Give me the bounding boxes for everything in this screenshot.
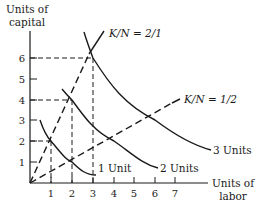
ray-2-1-label: K/N = 2/1 (108, 27, 162, 39)
x-tick-2: 2 (69, 188, 75, 199)
isoquant-1-unit-label: 1 Unit (98, 162, 132, 174)
x-axis-title-line1: Units of (212, 177, 255, 189)
ray-2-1-solid (89, 31, 104, 54)
ray-2-1-dashed (30, 54, 89, 183)
y-tick-3: 3 (19, 115, 25, 126)
ray-1-2-label: K/N = 1/2 (183, 93, 237, 105)
ray-1-2-solid (172, 99, 180, 103)
y-tick-1: 1 (19, 157, 25, 168)
isoquant-2-units-label: 2 Units (160, 162, 199, 174)
x-tick-4: 4 (111, 188, 117, 199)
isoquant-chart: Units of capital 1 2 3 4 5 6 (0, 0, 258, 207)
x-axis-title-line2: labor (219, 190, 248, 202)
x-axis-ticks (51, 177, 175, 183)
isoquant-2-units (62, 89, 158, 168)
isoquant-3-units (84, 32, 211, 150)
x-tick-7: 7 (172, 188, 178, 199)
y-axis-title-line2: capital (9, 16, 46, 28)
y-tick-5: 5 (19, 74, 25, 85)
y-axis-title-line1: Units of (6, 3, 49, 15)
x-tick-6: 6 (152, 188, 158, 199)
isoquant-figure: Units of capital 1 2 3 4 5 6 (0, 0, 258, 207)
y-axis-ticks (30, 58, 37, 162)
y-tick-4: 4 (19, 95, 25, 106)
x-tick-5: 5 (131, 188, 137, 199)
isoquant-1-unit (40, 120, 96, 175)
y-tick-2: 2 (19, 136, 25, 147)
x-tick-1: 1 (48, 188, 54, 199)
isoquant-3-units-label: 3 Units (213, 144, 252, 156)
y-tick-6: 6 (19, 53, 25, 64)
x-tick-3: 3 (90, 188, 96, 199)
